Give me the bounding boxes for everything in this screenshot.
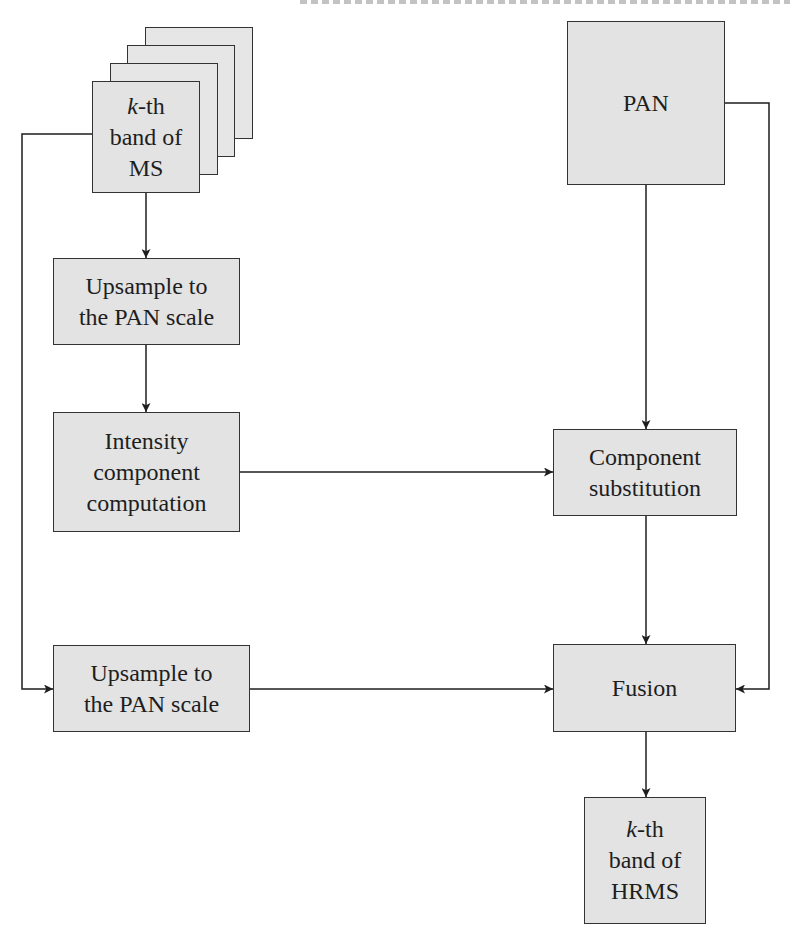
node-fusion: Fusion [553,644,736,732]
node-intensity-computation: Intensity component computation [53,412,240,532]
node-upsample-2: Upsample to the PAN scale [53,645,250,732]
node-pan: PAN [567,21,725,185]
node-ms-kth-band: k-th band of MS [92,81,200,193]
node-upsample-1: Upsample to the PAN scale [53,258,240,345]
node-hrms-kth-band: k-th band of HRMS [584,797,706,924]
node-component-substitution: Component substitution [553,429,737,516]
k-symbol: k [626,816,637,842]
k-symbol: k [127,93,138,119]
edge-pan-to-fusion [725,103,769,689]
